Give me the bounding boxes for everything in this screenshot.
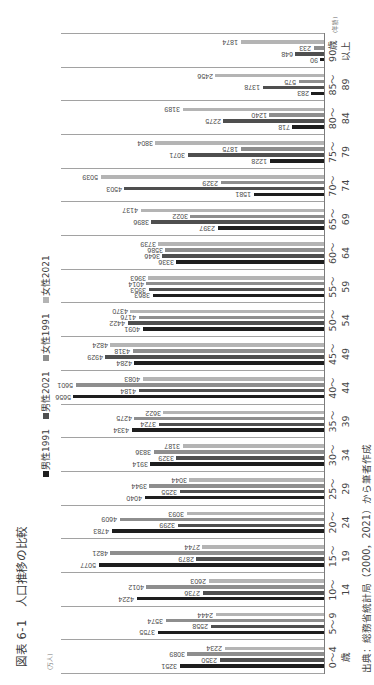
value-label: 3836 — [136, 449, 152, 456]
value-label: 2329 — [203, 179, 219, 186]
value-label: 4609 — [102, 516, 118, 523]
value-label: 3089 — [169, 651, 185, 658]
value-label: 3187 — [165, 443, 181, 450]
category-label: 30～ 34 — [327, 438, 352, 472]
value-label: 5601 — [58, 381, 74, 388]
category-label: 15～ 19 — [327, 539, 352, 573]
legend-item-male-1991: 男性1991 — [39, 429, 52, 477]
bar-male-2021 — [263, 86, 324, 90]
value-label: 3724 — [141, 421, 157, 428]
bar-male-1991 — [137, 597, 324, 601]
legend-swatch-icon — [43, 413, 49, 419]
bar-female-1991 — [149, 484, 324, 488]
bar-male-1991 — [153, 294, 324, 298]
legend-label: 女性2021 — [39, 255, 52, 296]
rotated-figure-page: 図表 6-1 人口推移の比較 (万人) 男性1991 男性2021 女性1991… — [0, 0, 374, 685]
source-note: 出典：総務省統計局（2000，2021）から筆者作成 — [359, 444, 373, 673]
bar-female-1991 — [133, 349, 324, 353]
legend-label: 男性2021 — [39, 371, 52, 412]
category-label: 50～ 54 — [327, 304, 352, 338]
bar-female-2021 — [183, 108, 324, 112]
value-label: 4176 — [121, 314, 137, 321]
category-separator-line — [61, 269, 324, 270]
bar-male-2021 — [188, 153, 324, 157]
bar-male-1991 — [132, 428, 324, 432]
bar-female-1991 — [76, 383, 324, 387]
value-label: 2744 — [184, 544, 200, 551]
figure-title: 図表 6-1 人口推移の比較 — [13, 526, 29, 667]
legend-label: 男性1991 — [39, 429, 52, 470]
bar-male-2021 — [203, 591, 324, 595]
bar-female-2021 — [158, 242, 324, 246]
bar-female-2021 — [141, 209, 324, 213]
value-label: 4503 — [106, 185, 122, 192]
category-label: 0～4 歳 — [327, 640, 352, 674]
category-label: 10～ 14 — [327, 573, 352, 607]
bar-male-1991 — [158, 631, 324, 635]
value-label: 283 — [297, 90, 309, 97]
category-separator-line — [61, 639, 324, 640]
bar-male-1991 — [73, 395, 324, 399]
value-label: 3022 — [172, 213, 188, 220]
category-separator-line — [61, 572, 324, 573]
bar-female-1991 — [120, 518, 324, 522]
value-label: 3251 — [162, 663, 178, 670]
category-label: 80～ 84 — [327, 101, 352, 135]
bar-male-1991 — [134, 361, 324, 365]
bar-male-1991 — [320, 58, 324, 62]
category-label: 55～ 59 — [327, 270, 352, 304]
value-label: 4783 — [94, 528, 110, 535]
category-label: 90歳 以上 — [327, 34, 352, 68]
value-label: 3574 — [147, 617, 163, 624]
value-label: 4370 — [112, 308, 128, 315]
category-separator-line — [61, 134, 324, 135]
category-separator-line — [61, 302, 324, 303]
category-label: 65～ 69 — [327, 202, 352, 236]
bar-male-1991 — [145, 496, 324, 500]
value-label: 3944 — [131, 482, 147, 489]
category-separator-line — [61, 437, 324, 438]
value-label: 3336 — [158, 258, 174, 265]
value-unit-label: (万人) — [45, 653, 54, 670]
bar-male-2021 — [295, 52, 324, 56]
category-axis-line — [324, 33, 325, 674]
value-label: 2603 — [191, 577, 207, 584]
category-separator-line — [61, 538, 324, 539]
bar-male-2021 — [162, 254, 324, 258]
value-label: 2444 — [198, 611, 214, 618]
value-label: 2558 — [193, 623, 209, 630]
category-axis-labels: 0～4 歳5～910～ 1415～ 1920～ 2425～ 2930～ 3435… — [327, 34, 355, 674]
bar-female-1991 — [187, 652, 324, 656]
value-label: 4821 — [92, 550, 108, 557]
bar-male-2021 — [196, 557, 324, 561]
value-label: 3739 — [140, 241, 156, 248]
value-label: 1378 — [245, 84, 261, 91]
category-label: 85～ 89 — [327, 68, 352, 102]
category-separator-line — [61, 606, 324, 607]
bar-male-1991 — [254, 193, 324, 197]
value-label: 718 — [278, 124, 290, 131]
value-label: 3189 — [165, 106, 181, 113]
bar-female-2021 — [110, 343, 324, 347]
bar-female-2021 — [183, 444, 324, 448]
bar-female-2021 — [209, 579, 324, 583]
value-label: 2736 — [185, 589, 201, 596]
bar-male-1991 — [180, 664, 324, 668]
bar-female-2021 — [101, 175, 324, 179]
value-label: 3622 — [145, 409, 161, 416]
legend-swatch-icon — [43, 297, 49, 303]
legend-swatch-icon — [43, 355, 49, 361]
bar-male-1991 — [218, 226, 324, 230]
category-label: 60～ 64 — [327, 236, 352, 270]
value-label: 4137 — [123, 207, 139, 214]
bar-female-1991 — [134, 417, 324, 421]
category-separator-line — [61, 370, 324, 371]
bar-male-1991 — [143, 327, 324, 331]
bar-female-2021 — [216, 613, 324, 617]
bar-female-1991 — [146, 282, 324, 286]
value-label: 4012 — [128, 583, 144, 590]
bar-female-2021 — [163, 411, 324, 415]
value-label: 1875 — [223, 145, 239, 152]
value-label: 5656 — [55, 393, 71, 400]
bar-female-2021 — [225, 647, 324, 651]
